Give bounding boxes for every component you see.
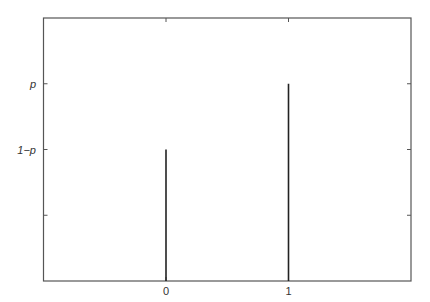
plot-frame xyxy=(44,18,412,281)
x-tick-label: 0 xyxy=(156,285,176,297)
axis-ticks xyxy=(44,18,412,281)
stem-series xyxy=(166,84,289,281)
bernoulli-pmf-chart xyxy=(0,0,430,302)
y-tick-label: 1−p xyxy=(0,144,36,156)
x-tick-label: 1 xyxy=(279,285,299,297)
y-tick-label: p xyxy=(0,78,36,90)
